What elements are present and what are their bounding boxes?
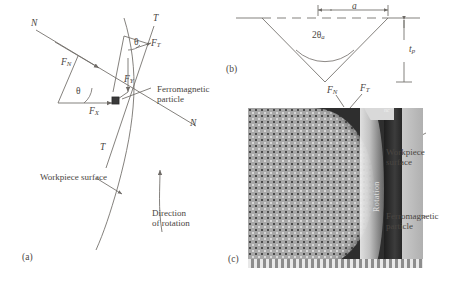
panel-a-particle-annotation: Ferromagnetic particle: [157, 84, 209, 104]
micrograph-bottom-strip: [248, 259, 423, 268]
panel-b-width-label: a: [352, 1, 357, 12]
panel-a-theta-lower-label: θ: [76, 86, 81, 97]
panel-a-force-normal-label: FN: [61, 57, 71, 68]
panel-a-force-tangential-label: FT: [151, 38, 161, 49]
panel-a-normal-axis-lower-label: N: [190, 118, 196, 129]
panel-a-workpiece-surface-annotation: Workpiece surface: [40, 172, 107, 182]
panel-a-force-y-label: FY: [124, 74, 134, 85]
panel-a-theta-upper-label: θ: [134, 37, 139, 48]
panel-c-id-label: (c): [228, 254, 239, 265]
panel-c-particle-annotation: Ferromagnetic particle: [386, 211, 438, 231]
panel-b-depth-label: tp: [409, 44, 415, 55]
panel-c-workpiece-surface-annotation: Workpiece surface: [386, 147, 425, 167]
micrograph-dark-band: [384, 108, 402, 268]
panel-b-id-label: (b): [226, 64, 237, 75]
panel-c-corner-tag-label: nc: [384, 107, 390, 114]
panel-b-angle-label: 2θa: [312, 30, 325, 41]
micrograph-right-region: [402, 108, 423, 268]
panel-c-rotation-overlay-label: Rotation: [372, 181, 381, 212]
panel-a-rotation-annotation: Direction of rotation: [152, 208, 190, 228]
panel-c-force-tangential-label: FT: [360, 83, 370, 94]
panel-c-force-normal-label: FN: [327, 85, 337, 96]
micrograph-particle-texture: [248, 108, 374, 268]
panel-a-tangential-axis-lower-label: T: [100, 142, 105, 153]
panel-a-force-x-label: FX: [89, 106, 99, 117]
panel-a-normal-axis-upper-label: N: [31, 18, 37, 29]
panel-a-tangential-axis-upper-label: T: [153, 13, 158, 24]
panel-c-micrograph: [248, 108, 423, 268]
panel-b-lines: [236, 5, 420, 82]
figure-container: N N T T FN FT FX FY θ θ Ferromagnetic pa…: [0, 0, 464, 283]
panel-a-id-label: (a): [22, 252, 33, 263]
